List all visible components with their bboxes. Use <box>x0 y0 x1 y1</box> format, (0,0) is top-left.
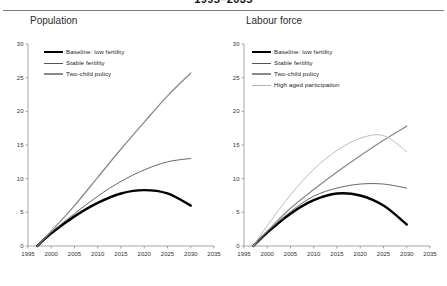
svg-text:30: 30 <box>17 41 24 47</box>
legend-swatch-two-child <box>252 73 271 74</box>
legend-item: High aged participation <box>252 80 340 90</box>
svg-text:25: 25 <box>233 75 240 81</box>
legend-item: Stable fertility <box>44 58 124 68</box>
svg-text:2020: 2020 <box>138 251 152 257</box>
svg-text:2030: 2030 <box>400 251 414 257</box>
svg-text:10: 10 <box>17 176 24 182</box>
svg-text:1995: 1995 <box>237 251 251 257</box>
legend-item: Stable fertility <box>252 58 340 68</box>
legend-labour-force: Baseline: low fertility Stable fertility… <box>252 47 340 91</box>
svg-text:2030: 2030 <box>184 251 198 257</box>
svg-text:2035: 2035 <box>207 251 221 257</box>
figure-title: 1995–2035 <box>0 0 447 5</box>
svg-text:0: 0 <box>20 243 24 249</box>
legend-swatch-baseline <box>252 51 271 53</box>
svg-text:2005: 2005 <box>68 251 82 257</box>
svg-text:2010: 2010 <box>91 251 105 257</box>
legend-label-two-child: Two-child policy <box>274 71 319 77</box>
legend-label-baseline: Baseline: low fertility <box>66 49 124 55</box>
svg-text:15: 15 <box>233 142 240 148</box>
svg-text:30: 30 <box>233 41 240 47</box>
legend-swatch-baseline <box>44 51 63 53</box>
legend-label-two-child: Two-child policy <box>66 71 111 77</box>
legend-label-stable: Stable fertility <box>274 60 313 66</box>
svg-text:25: 25 <box>17 75 24 81</box>
svg-text:2000: 2000 <box>45 251 59 257</box>
svg-text:2005: 2005 <box>284 251 298 257</box>
svg-text:2015: 2015 <box>330 251 344 257</box>
svg-text:2015: 2015 <box>114 251 128 257</box>
svg-text:10: 10 <box>233 176 240 182</box>
svg-text:2020: 2020 <box>354 251 368 257</box>
legend-label-high-aged: High aged participation <box>274 82 340 88</box>
legend-swatch-stable <box>252 63 271 64</box>
svg-text:2010: 2010 <box>307 251 321 257</box>
svg-text:20: 20 <box>233 108 240 114</box>
svg-text:1995: 1995 <box>21 251 35 257</box>
svg-text:20: 20 <box>17 108 24 114</box>
svg-text:2025: 2025 <box>377 251 391 257</box>
svg-text:2025: 2025 <box>161 251 175 257</box>
panel-title-labour-force: Labour force <box>246 15 302 26</box>
figure-container: 1995–2035 Population 0510152025301995200… <box>0 0 447 286</box>
legend-label-stable: Stable fertility <box>66 60 105 66</box>
header-divider <box>3 10 444 11</box>
legend-swatch-stable <box>44 63 63 64</box>
svg-text:5: 5 <box>236 209 240 215</box>
svg-text:0: 0 <box>236 243 240 249</box>
legend-item: Baseline: low fertility <box>252 47 340 57</box>
legend-item: Two-child policy <box>252 69 340 79</box>
svg-text:5: 5 <box>20 209 24 215</box>
svg-text:2000: 2000 <box>261 251 275 257</box>
legend-item: Two-child policy <box>44 69 124 79</box>
legend-item: Baseline: low fertility <box>44 47 124 57</box>
legend-population: Baseline: low fertility Stable fertility… <box>44 47 124 80</box>
svg-text:15: 15 <box>17 142 24 148</box>
legend-swatch-high-aged <box>252 85 271 86</box>
panel-title-population: Population <box>30 15 77 26</box>
svg-text:2035: 2035 <box>423 251 437 257</box>
legend-swatch-two-child <box>44 73 63 74</box>
legend-label-baseline: Baseline: low fertility <box>274 49 332 55</box>
